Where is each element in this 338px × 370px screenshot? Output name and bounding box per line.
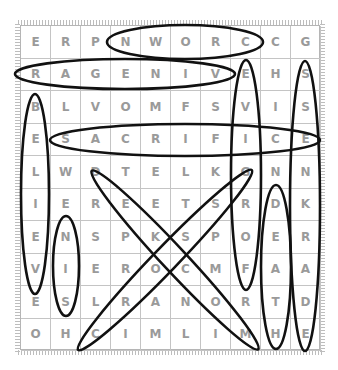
grid-cell[interactable]: W <box>51 156 81 189</box>
grid-cell[interactable]: E <box>111 59 141 92</box>
grid-cell[interactable]: R <box>51 26 81 59</box>
grid-cell[interactable]: C <box>231 26 261 59</box>
grid-cell[interactable]: O <box>201 286 231 319</box>
grid-cell[interactable]: S <box>291 91 321 124</box>
grid-cell[interactable]: R <box>81 189 111 222</box>
grid-cell[interactable]: T <box>111 156 141 189</box>
grid-cell[interactable]: O <box>21 319 51 352</box>
grid-cell[interactable]: R <box>201 26 231 59</box>
grid-cell[interactable]: L <box>171 156 201 189</box>
grid-cell[interactable]: G <box>81 59 111 92</box>
grid-cell[interactable]: C <box>81 319 111 352</box>
grid-cell[interactable]: C <box>171 254 201 287</box>
grid-cell[interactable]: E <box>231 59 261 92</box>
grid-cell[interactable]: N <box>141 59 171 92</box>
grid-cell[interactable]: A <box>291 254 321 287</box>
grid-cell[interactable]: C <box>261 124 291 157</box>
grid-cell[interactable]: L <box>51 91 81 124</box>
grid-cell[interactable]: W <box>141 26 171 59</box>
grid-cell[interactable]: R <box>111 286 141 319</box>
grid-cell[interactable]: K <box>141 221 171 254</box>
grid-cell[interactable]: E <box>291 124 321 157</box>
grid-cell[interactable]: I <box>171 59 201 92</box>
grid-cell[interactable]: N <box>291 156 321 189</box>
grid-cell[interactable]: I <box>111 319 141 352</box>
grid-cell[interactable]: E <box>21 26 51 59</box>
grid-cell[interactable]: L <box>171 319 201 352</box>
grid-cell[interactable]: K <box>291 189 321 222</box>
grid-cell[interactable]: S <box>201 91 231 124</box>
grid-cell[interactable]: T <box>261 286 291 319</box>
grid-cell[interactable]: S <box>81 221 111 254</box>
grid-cell[interactable]: S <box>201 189 231 222</box>
grid-cell[interactable]: E <box>81 254 111 287</box>
grid-cell[interactable]: G <box>291 26 321 59</box>
grid-cell[interactable]: M <box>201 254 231 287</box>
grid-cell[interactable]: H <box>261 59 291 92</box>
grid-cell[interactable]: I <box>231 124 261 157</box>
grid-cell[interactable]: E <box>111 189 141 222</box>
grid-cell[interactable]: E <box>51 189 81 222</box>
grid-cell[interactable]: A <box>261 254 291 287</box>
grid-cell[interactable]: D <box>81 156 111 189</box>
grid-cell[interactable]: C <box>111 124 141 157</box>
grid-cell[interactable]: S <box>51 124 81 157</box>
grid-cell[interactable]: C <box>261 26 291 59</box>
grid-cell[interactable]: A <box>81 124 111 157</box>
grid-cell[interactable]: M <box>141 319 171 352</box>
grid-cell[interactable]: D <box>261 189 291 222</box>
grid-cell[interactable]: L <box>21 156 51 189</box>
grid-cell[interactable]: M <box>231 319 261 352</box>
grid-cell[interactable]: V <box>201 59 231 92</box>
grid-cell[interactable]: O <box>171 26 201 59</box>
grid-cell[interactable]: E <box>291 319 321 352</box>
grid-cell[interactable]: H <box>51 319 81 352</box>
grid-cell[interactable]: S <box>291 59 321 92</box>
grid-cell[interactable]: E <box>141 156 171 189</box>
grid-cell[interactable]: E <box>141 189 171 222</box>
grid-cell[interactable]: A <box>51 59 81 92</box>
grid-cell[interactable]: H <box>261 319 291 352</box>
grid-cell[interactable]: B <box>21 91 51 124</box>
grid-cell[interactable]: I <box>21 189 51 222</box>
grid-cell[interactable]: P <box>201 221 231 254</box>
grid-cell[interactable]: S <box>51 286 81 319</box>
grid-cell[interactable]: D <box>291 286 321 319</box>
grid-cell[interactable]: V <box>21 254 51 287</box>
grid-cell[interactable]: I <box>51 254 81 287</box>
grid-cell[interactable]: R <box>141 124 171 157</box>
grid-cell[interactable]: N <box>51 221 81 254</box>
grid-cell[interactable]: F <box>171 91 201 124</box>
grid-cell[interactable]: I <box>201 319 231 352</box>
grid-cell[interactable]: K <box>201 156 231 189</box>
grid-cell[interactable]: O <box>111 91 141 124</box>
grid-cell[interactable]: F <box>201 124 231 157</box>
grid-cell[interactable]: T <box>171 189 201 222</box>
grid-cell[interactable]: N <box>261 156 291 189</box>
grid-cell[interactable]: P <box>111 221 141 254</box>
grid-cell[interactable]: R <box>231 286 261 319</box>
grid-cell[interactable]: O <box>231 221 261 254</box>
grid-cell[interactable]: A <box>141 286 171 319</box>
grid-cell[interactable]: E <box>261 221 291 254</box>
grid-cell[interactable]: E <box>21 286 51 319</box>
grid-cell[interactable]: E <box>21 221 51 254</box>
grid-cell[interactable]: R <box>111 254 141 287</box>
grid-cell[interactable]: I <box>261 91 291 124</box>
grid-cell[interactable]: I <box>171 124 201 157</box>
grid-cell[interactable]: N <box>111 26 141 59</box>
grid-cell[interactable]: V <box>81 91 111 124</box>
grid-cell[interactable]: P <box>81 26 111 59</box>
grid-cell[interactable]: E <box>21 124 51 157</box>
grid-cell[interactable]: R <box>291 221 321 254</box>
grid-cell[interactable]: G <box>231 156 261 189</box>
grid-cell[interactable]: F <box>231 254 261 287</box>
grid-cell[interactable]: M <box>141 91 171 124</box>
grid-cell[interactable]: V <box>231 91 261 124</box>
grid-cell[interactable]: L <box>81 286 111 319</box>
grid-cell[interactable]: S <box>171 221 201 254</box>
grid-cell[interactable]: O <box>141 254 171 287</box>
grid-cell[interactable]: R <box>21 59 51 92</box>
grid-cell[interactable]: R <box>231 189 261 222</box>
grid-cell[interactable]: N <box>171 286 201 319</box>
